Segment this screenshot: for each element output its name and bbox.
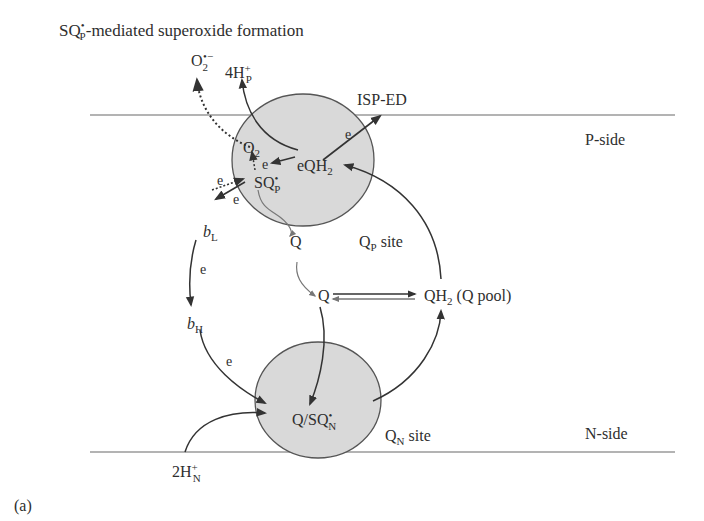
figure-title: SQ•P-mediated superoxide formation: [59, 20, 304, 42]
electron-label-o2: e: [262, 158, 268, 172]
bl-to-bh-arrow: [190, 240, 196, 305]
electron-label-bh-qn: e: [226, 355, 232, 369]
electron-label-bl-in: e: [217, 174, 223, 188]
sqp-label: SQ•P: [254, 173, 280, 195]
electron-label-bl-bh: e: [200, 263, 206, 277]
qn-site-label: QN site: [385, 428, 431, 447]
n-side-label: N-side: [585, 426, 628, 442]
q-to-qpool-arrow: [297, 262, 315, 296]
qh2-pool-label: QH2 (Q pool): [424, 288, 511, 307]
q-released-label: Q: [290, 234, 302, 250]
isp-ed-label: ISP-ED: [357, 92, 407, 108]
proton-uptake-arrow: [185, 412, 265, 452]
p-side-label: P-side: [585, 132, 625, 148]
proton-n-label: 2H+N: [172, 462, 201, 484]
q-pool-q-label: Q: [318, 288, 330, 304]
electron-label-isp: e: [345, 128, 351, 142]
qh2-p-label: eQH2: [297, 158, 333, 177]
qp-site-label: QP site: [359, 234, 403, 253]
o2-label: O2: [243, 140, 260, 159]
bl-label: bL: [203, 224, 218, 243]
diagram-canvas: [0, 0, 704, 521]
qn-to-qpool-arc: [373, 311, 441, 401]
qn-site-circle: [255, 342, 381, 458]
proton-p-label: 4H+P: [225, 63, 252, 85]
panel-label: (a): [14, 498, 32, 514]
electron-label-bl-out: e: [233, 193, 239, 207]
superoxide-label: O2•−: [191, 51, 213, 73]
q-sqn-label: Q/SQ•N: [292, 410, 336, 432]
bh-label: bH: [187, 316, 203, 335]
